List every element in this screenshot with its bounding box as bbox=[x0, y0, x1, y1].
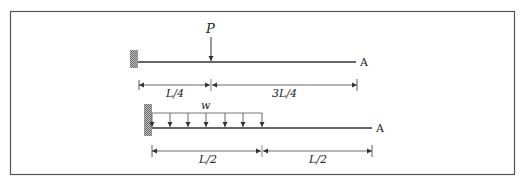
beam1-dim-label-1: L/4 bbox=[165, 87, 184, 100]
beam2-fixed-support bbox=[144, 104, 152, 136]
beam1-fixed-support bbox=[130, 50, 138, 68]
point-load-label: P bbox=[205, 21, 215, 36]
beam-diagram: A P L/4 3L/4 A w L/2 L/2 bbox=[0, 0, 522, 182]
beam2-end-label: A bbox=[375, 122, 385, 135]
beam2-dim-label-1: L/2 bbox=[198, 153, 217, 166]
beam1-dim-label-2: 3L/4 bbox=[272, 87, 297, 100]
beam1-end-label: A bbox=[359, 56, 369, 69]
beam2-dim-label-2: L/2 bbox=[308, 153, 327, 166]
figure-border bbox=[11, 12, 515, 175]
distributed-load-label: w bbox=[201, 99, 211, 112]
beam1-group: A P L/4 3L/4 bbox=[130, 21, 369, 100]
beam2-group: A w L/2 L/2 bbox=[144, 99, 385, 166]
distributed-load-arrows bbox=[152, 113, 262, 127]
